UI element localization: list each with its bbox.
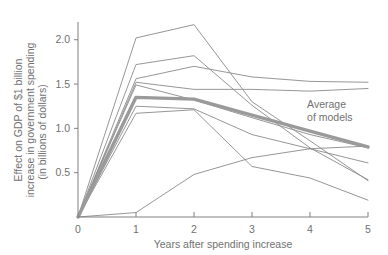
y-tick-label-1.5: 1.5 (55, 78, 70, 90)
y-tick-label-0.5: 0.5 (55, 166, 70, 178)
x-tick-label-0: 0 (75, 223, 81, 235)
chart-container: 0.51.01.52.0 012345 Years after spending… (0, 0, 388, 255)
y-tick-label-2.0: 2.0 (55, 33, 70, 45)
annotation-line-2: of models (307, 111, 353, 123)
x-axis-title: Years after spending increase (154, 238, 293, 250)
y-tick-labels: 0.51.01.52.0 (55, 33, 70, 178)
y-axis-title-line-3: (in billions of dollars) (36, 84, 48, 180)
x-tick-label-2: 2 (191, 223, 197, 235)
x-tick-label-4: 4 (307, 223, 313, 235)
y-tick-marks (74, 40, 78, 173)
annotation-line-1: Average (307, 98, 346, 110)
line-chart: 0.51.01.52.0 012345 Years after spending… (0, 0, 388, 255)
x-tick-label-5: 5 (365, 223, 371, 235)
y-axis-title-line-1: Effect on GDP of $1 billion (12, 58, 24, 181)
x-tick-marks (136, 212, 368, 217)
y-axis-title: Effect on GDP of $1 billion increase in … (12, 43, 48, 198)
model-line-8 (78, 146, 368, 217)
y-axis-title-line-2: increase in government spending (24, 43, 36, 198)
average-of-models-annotation: Average of models (307, 98, 353, 123)
x-tick-label-3: 3 (249, 223, 255, 235)
y-tick-label-1.0: 1.0 (55, 122, 70, 134)
x-tick-label-1: 1 (133, 223, 139, 235)
x-tick-labels: 012345 (75, 223, 371, 235)
